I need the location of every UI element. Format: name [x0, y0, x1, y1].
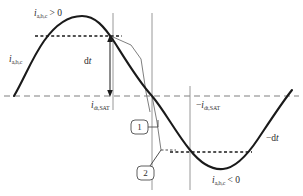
waveform-svg: [0, 0, 303, 196]
negative-saturation-label: −idt,SAT: [196, 101, 220, 111]
current-left-subscript: a,b,c: [12, 59, 23, 65]
negative-saturation-subscript: dt,SAT: [204, 105, 220, 111]
positive-saturation-subscript: dt,SAT: [94, 105, 110, 111]
distorted-polyline-lower: [152, 96, 161, 150]
negative-current-label: ia,b,c < 0: [212, 176, 240, 186]
dead-time-down-t: t: [276, 133, 279, 143]
positive-current-subscript: a,b,c: [37, 13, 48, 19]
positive-current-relation: > 0: [50, 8, 62, 18]
current-left-label: ia,b,c: [9, 55, 22, 65]
positive-current-label: ia,b,c > 0: [34, 9, 62, 19]
dead-time-down-label: −dt: [266, 134, 279, 144]
dead-time-up-label: dt: [84, 57, 91, 67]
dead-time-up-t: t: [89, 56, 92, 66]
negative-current-relation: < 0: [228, 175, 240, 185]
phase-current-curve: [14, 16, 292, 169]
positive-saturation-label: idt,SAT: [91, 101, 110, 111]
callout-2-number[interactable]: 2: [139, 168, 152, 179]
waveform-figure: ia,b,c > 0 ia,b,c dt −dt idt,SAT −idt,SA…: [0, 0, 303, 196]
negative-current-subscript: a,b,c: [215, 180, 226, 186]
dead-time-down-d: −d: [266, 133, 276, 143]
callout-1-number[interactable]: 1: [133, 122, 146, 133]
